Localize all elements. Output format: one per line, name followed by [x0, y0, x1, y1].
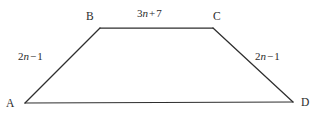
- vertex-label-d: D: [301, 97, 310, 109]
- side-length-label-ab: 2n−1: [18, 51, 43, 62]
- right-operator: −: [266, 50, 274, 62]
- edge-A-B: [25, 28, 100, 103]
- vertex-label-c: C: [213, 11, 221, 23]
- edge-C-D: [213, 28, 293, 102]
- side-length-label-bc: 3n+7: [137, 8, 162, 19]
- top-operator: +: [148, 7, 156, 19]
- top-constant: 7: [156, 7, 162, 19]
- side-length-label-cd: 2n−1: [255, 51, 280, 62]
- left-operator: −: [29, 50, 37, 62]
- edge-D-A: [25, 102, 293, 103]
- vertex-label-b: B: [86, 11, 94, 23]
- right-constant: 1: [274, 50, 280, 62]
- vertex-label-a: A: [6, 98, 15, 110]
- left-constant: 1: [37, 50, 43, 62]
